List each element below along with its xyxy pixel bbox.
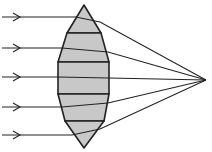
upper-prism-segment xyxy=(58,33,109,62)
lower-prism-segment xyxy=(58,94,109,121)
lens-segments xyxy=(58,5,109,148)
diagram-canvas xyxy=(0,0,212,152)
lens-diagram: Segmented prism lens approximating a con… xyxy=(0,0,212,152)
